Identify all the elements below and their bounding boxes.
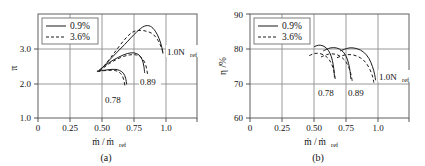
annotation-b-0-89: 0.89 bbox=[347, 87, 370, 98]
x-axis-title-b-main: ṁ / ṁ bbox=[304, 137, 326, 147]
y-tick-label-a-1: 1.0 bbox=[20, 113, 32, 123]
x-axis-title-b: ṁ / ṁ ref bbox=[304, 137, 339, 148]
x-tick-label-b-4: 1.0 bbox=[372, 123, 384, 133]
y-axis-title-b: η /% bbox=[218, 57, 228, 75]
x-axis-title-a: ṁ / ṁ ref bbox=[92, 137, 127, 148]
y-tick-label-b-80: 80 bbox=[234, 44, 244, 54]
y-axis-title-a: π bbox=[9, 65, 19, 70]
annotation-a-1-0nref-main: 1.0N bbox=[167, 47, 185, 57]
panel-caption-a: (a) bbox=[100, 152, 111, 164]
legend-b-label-1: 3.6% bbox=[282, 32, 302, 42]
chart-panel-b: 90 80 70 60 0 0.25 0.50 0.75 1.0 η /% ṁ… bbox=[212, 0, 425, 166]
x-axis-ticks-a bbox=[38, 118, 197, 122]
annotation-a-0-89: 0.89 bbox=[139, 76, 161, 87]
figure-container: 3.0 2.0 1.0 0 0.25 0.50 0.75 1.0 π ṁ / … bbox=[0, 0, 425, 166]
annotation-b-1-0nref-sub: ref bbox=[402, 76, 410, 83]
y-tick-label-a-3: 3.0 bbox=[20, 44, 32, 54]
x-axis-title-a-main: ṁ / ṁ bbox=[92, 137, 114, 147]
annotation-b-0-78-text: 0.78 bbox=[318, 88, 334, 98]
chart-svg-b: 90 80 70 60 0 0.25 0.50 0.75 1.0 η /% ṁ… bbox=[212, 0, 425, 166]
x-tick-label-b-3: 0.75 bbox=[338, 123, 354, 133]
curve-b-3 bbox=[321, 54, 352, 82]
chart-svg-a: 3.0 2.0 1.0 0 0.25 0.50 0.75 1.0 π ṁ / … bbox=[0, 0, 213, 166]
y-axis-ticks-a bbox=[34, 49, 38, 118]
y-axis-ticks-b bbox=[246, 14, 250, 118]
annotation-b-0-78: 0.78 bbox=[317, 87, 340, 98]
panel-caption-b: (b) bbox=[312, 152, 324, 164]
y-tick-label-b-60: 60 bbox=[234, 113, 244, 123]
x-tick-label-a-4: 1.0 bbox=[160, 123, 172, 133]
x-axis-ticks-b bbox=[250, 118, 409, 122]
legend-a-label-1: 3.6% bbox=[70, 32, 90, 42]
x-tick-label-b-0: 0 bbox=[248, 123, 253, 133]
annotation-a-0-89-text: 0.89 bbox=[140, 77, 156, 87]
annotation-a-0-78: 0.78 bbox=[104, 94, 126, 105]
legend-b-label-0: 0.9% bbox=[282, 21, 302, 31]
chart-panel-a: 3.0 2.0 1.0 0 0.25 0.50 0.75 1.0 π ṁ / … bbox=[0, 0, 213, 166]
curves-b bbox=[309, 45, 375, 82]
x-tick-label-a-1: 0.25 bbox=[62, 123, 78, 133]
curve-a-1 bbox=[97, 70, 125, 86]
y-tick-label-b-90: 90 bbox=[234, 10, 244, 20]
annotation-b-1-0nref-main: 1.0N bbox=[379, 72, 397, 82]
y-tick-label-b-70: 70 bbox=[234, 79, 244, 89]
x-tick-label-a-0: 0 bbox=[36, 123, 41, 133]
x-tick-label-b-1: 0.25 bbox=[274, 123, 290, 133]
x-axis-title-a-sub: ref bbox=[119, 141, 127, 148]
annotation-b-1-0nref: 1.0N ref bbox=[378, 70, 412, 83]
legend-b: 0.9% 3.6% bbox=[254, 18, 310, 44]
x-tick-label-b-2: 0.50 bbox=[306, 123, 322, 133]
y-tick-label-a-2: 2.0 bbox=[20, 79, 32, 89]
annotation-b-0-89-text: 0.89 bbox=[348, 88, 364, 98]
curve-b-5 bbox=[337, 55, 374, 83]
x-tick-label-a-3: 0.75 bbox=[126, 123, 142, 133]
x-tick-label-a-2: 0.50 bbox=[94, 123, 110, 133]
annotation-a-1-0nref: 1.0N ref bbox=[166, 45, 200, 58]
annotation-a-1-0nref-sub: ref bbox=[190, 51, 198, 58]
legend-a-label-0: 0.9% bbox=[70, 21, 90, 31]
annotation-a-0-78-text: 0.78 bbox=[105, 95, 121, 105]
legend-a: 0.9% 3.6% bbox=[42, 18, 98, 44]
x-axis-title-b-sub: ref bbox=[331, 141, 339, 148]
